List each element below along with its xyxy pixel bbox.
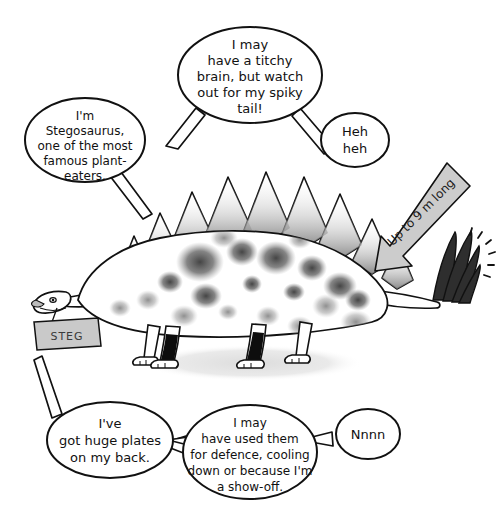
- svg-text:heh: heh: [343, 141, 367, 156]
- svg-text:got huge plates: got huge plates: [59, 433, 161, 448]
- svg-text:one of the most: one of the most: [37, 139, 132, 153]
- stegosaurus-scene: Up to 9 m long STEG: [0, 0, 500, 531]
- svg-text:Heh: Heh: [342, 124, 368, 139]
- svg-text:down or because I'm: down or because I'm: [188, 464, 313, 478]
- svg-text:for defence, cooling: for defence, cooling: [190, 448, 309, 462]
- svg-text:I'm: I'm: [76, 109, 95, 123]
- svg-text:Nnnn: Nnnn: [351, 427, 385, 442]
- illustration-canvas: Up to 9 m long STEG: [0, 0, 500, 531]
- svg-text:eaters.: eaters.: [64, 169, 106, 183]
- svg-text:I may: I may: [233, 416, 267, 430]
- head: [32, 291, 71, 313]
- bubble-bottom-right-text: Nnnn: [351, 427, 385, 442]
- svg-text:brain, but watch: brain, but watch: [197, 69, 303, 84]
- tail-spikes: [433, 231, 480, 303]
- svg-text:out for my spiky: out for my spiky: [197, 85, 303, 100]
- svg-text:have used them: have used them: [201, 432, 298, 446]
- svg-text:famous plant-: famous plant-: [43, 154, 126, 168]
- name-tag-label: STEG: [50, 330, 83, 343]
- tail-bottom-left: [34, 356, 62, 418]
- svg-text:have a titchy: have a titchy: [207, 53, 292, 68]
- svg-text:I may: I may: [232, 37, 269, 52]
- tail-top-left: [166, 108, 205, 149]
- bubble-right: [321, 113, 389, 167]
- svg-text:tail!: tail!: [237, 101, 263, 116]
- svg-text:Stegosaurus,: Stegosaurus,: [46, 124, 124, 138]
- svg-text:a show-off.: a show-off.: [217, 480, 283, 494]
- svg-text:I've: I've: [98, 416, 121, 431]
- svg-text:on my back.: on my back.: [70, 450, 150, 465]
